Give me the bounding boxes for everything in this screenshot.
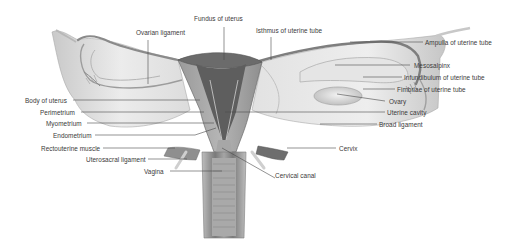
label-perimetrium: Perimetrium: [40, 109, 75, 117]
label-cervical-canal: Cervical canal: [275, 172, 316, 180]
label-ovary: Ovary: [389, 98, 406, 106]
ovary-shape: [314, 87, 362, 105]
label-fimbriae-of-uterine-tube: Fimbriae of uterine tube: [397, 86, 466, 94]
label-body-of-uterus: Body of uterus: [25, 97, 67, 105]
label-isthmus-of-uterine-tube: Isthmus of uterine tube: [256, 27, 322, 35]
label-endometrium: Endometrium: [53, 132, 92, 140]
label-cervix: Cervix: [339, 145, 357, 153]
label-vagina: Vagina: [144, 168, 164, 176]
label-ampulla-of-uterine-tube: Ampulla of uterine tube: [425, 39, 492, 47]
label-infundibulum-of-uterine-tube: Infundibulum of uterine tube: [404, 74, 485, 82]
label-uterine-cavity: Uterine cavity: [387, 109, 426, 117]
label-mesosalpinx: Mesosalpinx: [414, 62, 450, 70]
label-uterosacral-ligament: Uterosacral ligament: [86, 156, 146, 164]
label-broad-ligament: Broad ligament: [379, 121, 423, 129]
label-ovarian-ligament: Ovarian ligament: [136, 29, 185, 37]
label-fundus-of-uterus: Fundus of uterus: [194, 15, 243, 23]
label-myometrium: Myometrium: [46, 120, 82, 128]
vagina-shape: [202, 152, 246, 238]
label-rectouterine-muscle: Rectouterine muscle: [41, 145, 100, 153]
uterus-shape: [178, 53, 262, 152]
anatomy-diagram: Fundus of uterus Isthmus of uterine tube…: [0, 0, 521, 249]
